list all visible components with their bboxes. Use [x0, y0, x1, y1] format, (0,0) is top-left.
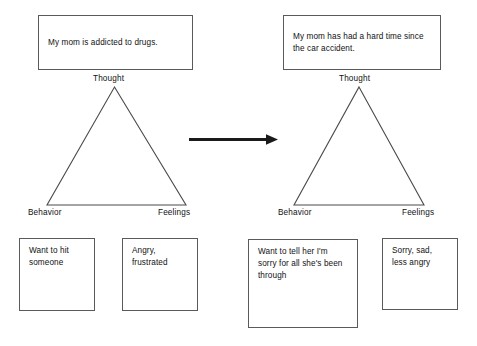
thought-box-after-text: My mom has had a hard time since the car… — [293, 31, 431, 55]
diagram-canvas: My mom is addicted to drugs. Thought Beh… — [0, 0, 477, 346]
thought-label-after: Thought — [339, 74, 370, 83]
thought-box-after: My mom has had a hard time since the car… — [283, 15, 441, 70]
behavior-box-after: Want to tell her I'm sorry for all she's… — [248, 239, 358, 328]
behavior-box-before: Want to hit someone — [19, 238, 95, 311]
feelings-box-after: Sorry, sad, less angry — [382, 238, 458, 310]
feelings-label-before: Feelings — [158, 208, 190, 217]
behavior-box-after-text: Want to tell her I'm sorry for all she's… — [258, 246, 348, 282]
triangle-after — [291, 84, 427, 208]
behavior-label-before: Behavior — [28, 208, 62, 217]
behavior-label-after: Behavior — [278, 208, 312, 217]
arrow-right-icon — [188, 130, 280, 150]
feelings-label-after: Feelings — [402, 208, 434, 217]
feelings-box-after-text: Sorry, sad, less angry — [392, 245, 448, 269]
thought-box-before-text: My mom is addicted to drugs. — [48, 37, 183, 49]
feelings-box-before-text: Angry, frustrated — [132, 245, 188, 269]
thought-box-before: My mom is addicted to drugs. — [38, 15, 193, 70]
triangle-before — [44, 84, 189, 208]
thought-label-before: Thought — [93, 74, 124, 83]
feelings-box-before: Angry, frustrated — [122, 238, 198, 311]
behavior-box-before-text: Want to hit someone — [29, 245, 85, 269]
